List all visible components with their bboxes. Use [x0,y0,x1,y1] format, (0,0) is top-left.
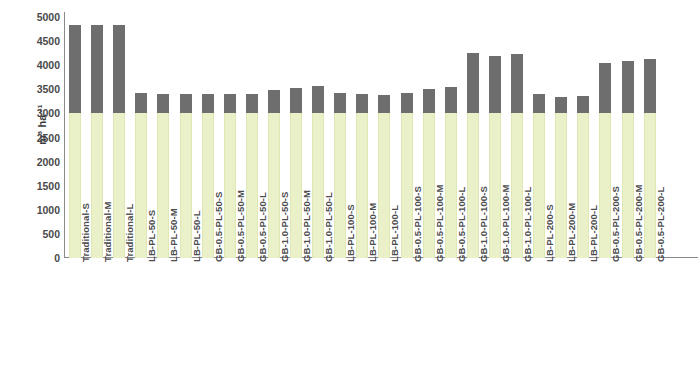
bar-segment-lower [224,113,236,258]
y-axis-tick-labels: 0500100015002000250030003500400045005000 [22,0,60,374]
x-axis-tick-label: GB-1.0-PL-50-S [279,152,290,262]
x-axis-tick-label: LB-PL-100-S [345,152,356,262]
bar-segment-upper [113,25,125,113]
bar-segment-lower [622,113,634,258]
x-axis-tick-label: GB-0.5-PL-50-S [213,152,224,262]
y-axis-tick-label: 2500 [22,132,60,144]
x-axis-tick-label: GB-1.0-PL-100-L [522,152,533,262]
x-axis-tick-label: LB-PL-200-M [566,152,577,262]
bar-segment-upper [445,87,457,113]
y-axis-tick-label: 1500 [22,180,60,192]
bar-segment-upper [511,54,523,114]
x-axis-tick-label: GB-0.5-PL-100-S [412,152,423,262]
bar-segment-upper [577,96,589,113]
bar-chart: m³ ha⁻¹ 05001000150020002500300035004000… [0,0,698,374]
bar-segment-upper [180,94,192,113]
bar-segment-lower [202,113,214,258]
bar-segment-upper [202,94,214,113]
bar-segment-upper [533,94,545,113]
x-axis-tick-label: GB-0.5-PL-100-M [434,152,445,262]
bar-segment-upper [622,61,634,113]
bar-segment-upper [378,95,390,113]
bar-segment-upper [290,88,302,113]
x-axis-tick-label: LB-PL-50-S [146,152,157,262]
y-axis-tick-label: 5000 [22,11,60,23]
y-axis-tick-label: 4500 [22,35,60,47]
y-axis-tick-label: 1000 [22,204,60,216]
bar [202,17,214,258]
y-axis-tick-label: 2000 [22,156,60,168]
bar-segment-lower [401,113,413,258]
x-axis-tick-label: GB-1.0-PL-100-S [478,152,489,262]
bar-segment-upper [157,94,169,113]
x-axis-tick-label: GB-1.0-PL-50-L [323,152,334,262]
x-axis-tick-label: Traditional-L [124,152,135,262]
y-axis-tick-label: 3500 [22,83,60,95]
bar-segment-lower [644,113,656,258]
bar-segment-upper [599,63,611,113]
bar-segment-upper [489,56,501,114]
bar-segment-upper [268,90,280,113]
bar [445,17,457,258]
bar-segment-lower [467,113,479,258]
x-axis-tick-label: GB-0.5-PL-50-M [235,152,246,262]
bar [622,17,634,258]
bar-segment-upper [334,93,346,113]
x-axis-tick-label: Traditional-S [80,152,91,262]
bar [423,17,435,258]
bar-segment-lower [423,113,435,258]
x-axis-tick-label: GB-0.5-PL-50-L [257,152,268,262]
bar-segment-upper [224,94,236,113]
x-axis-tick-label: GB-0.5-PL-200-L [655,152,666,262]
bar [246,17,258,258]
bar-segment-upper [423,89,435,113]
bar [401,17,413,258]
x-axis-tick-label: GB-1.0-PL-50-M [301,152,312,262]
bar-segment-upper [356,94,368,113]
bar-segment-upper [312,86,324,113]
bar-segment-upper [555,97,567,114]
x-axis-tick-label: LB-PL-50-M [168,152,179,262]
x-axis-tick-label: GB-0.5-PL-200-M [633,152,644,262]
bar-segment-upper [246,94,258,113]
bar-segment-lower [180,113,192,258]
bar-segment-upper [467,53,479,113]
x-axis-tick-label: GB-0.5-PL-100-L [456,152,467,262]
bar-segment-lower [246,113,258,258]
y-axis-tick-label: 4000 [22,59,60,71]
bar-segment-lower [445,113,457,258]
y-axis-tick-label: 0 [22,252,60,264]
bar [180,17,192,258]
bar [224,17,236,258]
x-axis-tick-label: GB-0.5-PL-200-S [610,152,621,262]
x-axis-tick-label: GB-1.0-PL-100-M [500,152,511,262]
plot-area [64,17,698,258]
y-axis-tick-label: 3000 [22,107,60,119]
bar [467,17,479,258]
bar-segment-upper [135,93,147,113]
x-axis-tick-label: LB-PL-50-L [191,152,202,262]
x-axis-tick-label: Traditional-M [102,152,113,262]
x-axis-tick-label: LB-PL-200-S [544,152,555,262]
bar-segment-upper [69,25,81,113]
y-axis-tick-label: 500 [22,228,60,240]
x-axis-tick-label: LB-PL-100-L [389,152,400,262]
x-axis-tick-labels: Traditional-STraditional-MTraditional-LL… [64,258,698,374]
x-axis-tick-label: LB-PL-200-L [588,152,599,262]
bar-segment-upper [644,59,656,113]
bar-segment-upper [401,93,413,114]
x-axis-tick-label: LB-PL-100-M [367,152,378,262]
bars-layer [64,17,698,258]
bar [644,17,656,258]
bar-segment-upper [91,25,103,114]
